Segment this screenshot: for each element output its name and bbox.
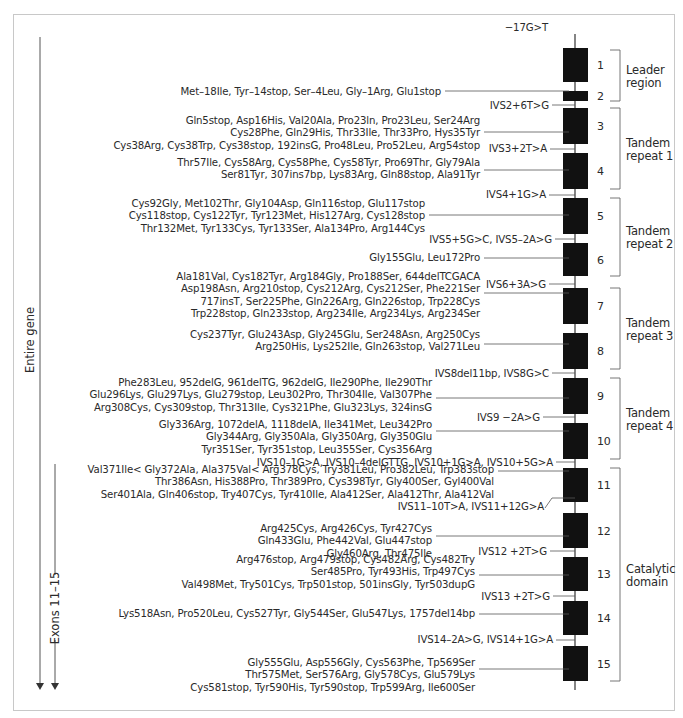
region-bracket [610, 288, 620, 369]
exon-number: 7 [597, 300, 604, 313]
intron-mutation-label: IVS8del11bp, IVS8G>C [435, 368, 549, 379]
intron-mutation-label: IVS5+5G>C, IVS5–2A>G [429, 234, 552, 245]
exon-9 [563, 378, 588, 414]
exon-number: 11 [597, 479, 611, 492]
exon-number: 2 [597, 90, 604, 103]
region-label: Tandem [625, 224, 670, 238]
mutation-line: Tyr351Ser, Tyr351stop, Leu355Ser, Cys356… [201, 444, 432, 455]
mutation-line: Ser401Ala, Gln406stop, Try407Cys, Tyr410… [101, 489, 494, 500]
region-label: Catalytic [626, 562, 675, 576]
mutation-line: Thr386Asn, His388Pro, Thr389Pro, Cys398T… [154, 476, 494, 487]
exon-3 [563, 108, 588, 144]
mutation-line: Ser485Pro, Tyr493His, Trp497Cys [311, 566, 475, 577]
mutation-line: Asp198Asn, Arg210stop, Cys212Arg, Cys212… [181, 283, 481, 294]
exon-number: 4 [597, 165, 604, 178]
mutation-line: Arg250His, Lys252Ile, Gln263stop, Val271… [255, 341, 480, 352]
mutation-line: Cys237Tyr, Glu243Asp, Gly245Glu, Ser248A… [190, 329, 480, 340]
mutation-line: Arg425Cys, Arg426Cys, Tyr427Cys [260, 523, 432, 534]
region-bracket [610, 198, 620, 276]
region-label: Tandem [625, 316, 670, 330]
region-label: Tandem [625, 406, 670, 420]
gene-diagram: Entire gene Exons 11–15 1234567891011121… [0, 0, 683, 718]
mutation-line: 717insT, Ser225Phe, Gln226Arg, Gln226sto… [200, 296, 480, 307]
mutation-line: Lys518Asn, Pro520Leu, Cys527Tyr, Gly544S… [118, 608, 475, 619]
mutation-line: Cys581stop, Tyr590His, Tyr590stop, Trp59… [190, 682, 476, 693]
region-label: repeat 1 [626, 149, 673, 163]
exon-number: 15 [597, 658, 611, 671]
mutation-line: Thr57Ile, Cys58Arg, Cys58Phe, Cys58Tyr, … [176, 157, 480, 168]
exon-10 [563, 423, 588, 459]
region-label: repeat 2 [626, 237, 673, 251]
exon-number: 5 [597, 210, 604, 223]
region-label: region [626, 76, 661, 90]
mutation-line: Ser81Tyr, 307ins7bp, Lys83Arg, Gln88stop… [221, 169, 481, 180]
intron-mutation-label: IVS10–1G>A, IVS10–4delGTTG, IVS10+1G>A, … [257, 457, 553, 468]
exon-6 [563, 243, 588, 276]
entire-gene-label: Entire gene [23, 307, 37, 373]
mutation-line: Cys38Arg, Cys38Trp, Cys38stop, 192insG, … [113, 140, 480, 151]
region-bracket [610, 378, 620, 459]
exon-number: 12 [597, 525, 611, 538]
exon-number: 13 [597, 568, 611, 581]
exon-number: 10 [597, 435, 611, 448]
exon-14 [563, 601, 588, 635]
upstream-mutation-label: −17G>T [505, 22, 549, 33]
intron-mutation-label: IVS13 +2T>G [481, 591, 550, 602]
intron-mutation-label: IVS6+3A>G [486, 279, 546, 290]
mutation-line: Gly336Arg, 1072delA, 1118delA, Ile341Met… [159, 419, 432, 430]
intron-mutation-label: IVS12 +2T>G [478, 546, 547, 557]
mutation-line: Cys92Gly, Met102Thr, Gly104Asp, Gln116st… [131, 198, 425, 209]
exon-number: 6 [597, 254, 604, 267]
intron-mutation-label: IVS9 −2A>G [477, 412, 540, 423]
mutation-line: Arg476stop, Arg479stop, Cys482Arg, Cys48… [236, 554, 475, 565]
mutation-line: Thr575Met, Ser576Arg, Gly578Cys, Glu579L… [244, 669, 475, 680]
intron-mutation-label: IVS4+1G>A [486, 189, 546, 200]
intron-mutation-label: IVS11–10T>A, IVS11+12G>A [398, 501, 545, 512]
mutation-line: Arg308Cys, Cys309stop, Thr313Ile, Cys321… [94, 402, 432, 413]
exon-number: 14 [597, 612, 611, 625]
mutation-line: Gly155Glu, Leu172Pro [369, 252, 480, 263]
region-bracket [610, 50, 620, 101]
exon-5 [563, 198, 588, 234]
mutation-line: Val498Met, Try501Cys, Trp501stop, 501ins… [182, 579, 476, 590]
intron-mutation-label: IVS3+2T>A [489, 143, 547, 154]
exon-2 [563, 91, 588, 101]
region-label: Tandem [625, 136, 670, 150]
region-label: Leader [626, 63, 665, 77]
exon-8 [563, 333, 588, 369]
region-label: repeat 3 [626, 329, 673, 343]
mutation-line: Gln433Glu, Phe442Val, Glu447stop [258, 535, 432, 546]
intron-leader-line [545, 498, 552, 508]
mutation-line: Ala181Val, Cys182Tyr, Arg184Gly, Pro188S… [176, 271, 480, 282]
intron-mutation-label: IVS2+6T>G [490, 100, 549, 111]
exon-number: 3 [597, 120, 604, 133]
mutation-line: Glu296Lys, Glu297Lys, Glu279stop, Leu302… [90, 389, 432, 400]
exon-13 [563, 557, 588, 591]
exon-11 [563, 468, 588, 502]
exon-number: 9 [597, 390, 604, 403]
region-label: repeat 4 [626, 419, 673, 433]
exons-11-15-label: Exons 11–15 [48, 572, 62, 645]
exon-15 [563, 646, 588, 681]
region-bracket [610, 108, 620, 189]
mutation-line: Gln5stop, Asp16His, Val20Ala, Pro23ln, P… [186, 115, 480, 126]
exon-4 [563, 153, 588, 189]
mutation-line: Gly555Glu, Asp556Gly, Cys563Phe, Tp569Se… [248, 657, 476, 668]
mutation-line: Trp228stop, Gln233stop, Arg234Ile, Arg23… [190, 308, 481, 319]
mutation-line: Thr132Met, Tyr133Cys, Tyr133Ser, Ala134P… [140, 223, 425, 234]
region-bracket [610, 468, 620, 681]
mutation-line: Phe283Leu, 952delG, 961delTG, 962delG, I… [118, 377, 433, 388]
region-label: domain [626, 575, 668, 589]
exon-number: 8 [597, 345, 604, 358]
exon-1 [563, 48, 588, 82]
exon-number: 1 [597, 59, 604, 72]
exon-12 [563, 513, 588, 548]
mutation-line: Met–18Ile, Tyr–14stop, Ser–4Leu, Gly–1Ar… [180, 86, 441, 97]
intron-mutation-label: IVS14–2A>G, IVS14+1G>A [418, 634, 554, 645]
mutation-line: Cys28Phe, Gln29His, Thr33Ile, Thr33Pro, … [230, 127, 481, 138]
entire-gene-arrow [36, 37, 44, 690]
mutation-line: Gly344Arg, Gly350Ala, Gly350Arg, Gly350G… [206, 431, 432, 442]
mutation-line: Cys118stop, Cys122Tyr, Tyr123Met, His127… [129, 210, 425, 221]
